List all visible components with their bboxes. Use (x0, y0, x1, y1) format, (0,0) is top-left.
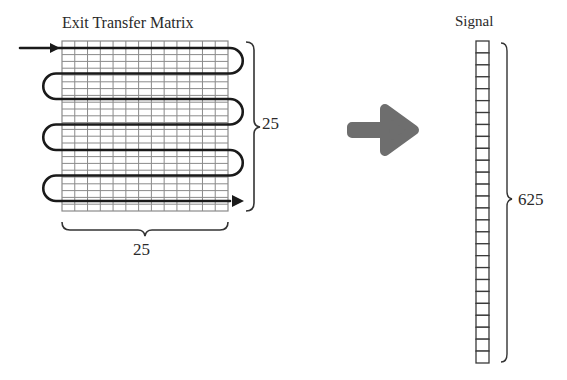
signal-cell (476, 124, 489, 136)
signal-cell (476, 351, 489, 363)
signal-cell (476, 268, 489, 280)
signal-cell (476, 280, 489, 292)
signal-cell (476, 136, 489, 148)
signal-cell (476, 101, 489, 113)
signal-cell (476, 220, 489, 232)
signal-cell (476, 339, 489, 351)
signal-brace (501, 43, 512, 362)
cols-brace (62, 222, 228, 236)
signal-cell (476, 160, 489, 172)
signal-cell (476, 65, 489, 77)
serpentine-scan-path (20, 43, 244, 207)
signal-vector (476, 41, 489, 363)
signal-cell (476, 196, 489, 208)
signal-cell (476, 244, 489, 256)
exit-arrow-icon (232, 195, 244, 207)
signal-cell (476, 303, 489, 315)
entry-arrow-icon (50, 43, 60, 53)
signal-cell (476, 327, 489, 339)
signal-cell (476, 113, 489, 125)
rows-brace (246, 42, 260, 211)
signal-cell (476, 77, 489, 89)
signal-cell (476, 148, 489, 160)
signal-cell (476, 53, 489, 65)
diagram-canvas (0, 0, 567, 380)
signal-cell (476, 172, 489, 184)
signal-cell (476, 256, 489, 268)
transform-arrow-icon (352, 109, 414, 151)
signal-cell (476, 41, 489, 53)
signal-cell (476, 208, 489, 220)
signal-cell (476, 232, 489, 244)
signal-cell (476, 315, 489, 327)
signal-cell (476, 291, 489, 303)
signal-cell (476, 184, 489, 196)
signal-cell (476, 89, 489, 101)
exit-transfer-matrix-grid (62, 41, 228, 211)
